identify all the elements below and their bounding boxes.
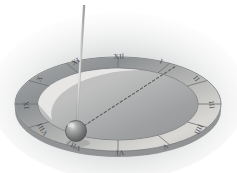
hour-numeral-vi: VI (115, 148, 124, 156)
sundial-canvas: XIIIIIIIIIIIIVVIVIIVIIIIXXXI (0, 0, 237, 173)
hour-numeral-xii: XII (114, 52, 125, 60)
hour-numeral-iii: III (207, 101, 216, 110)
sundial-figure: XIIIIIIIIIIIIVVIVIIVIIIIXXXI (0, 0, 237, 173)
hour-numeral-ix: IX (22, 100, 31, 109)
